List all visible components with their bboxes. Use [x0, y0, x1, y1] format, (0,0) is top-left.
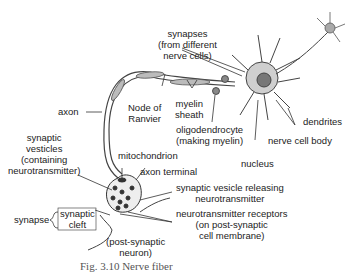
label-dendrites: dendrites [303, 116, 342, 127]
label-mitochondrion: mitochondrion [118, 150, 178, 161]
label-vesicles-line1: synaptic [8, 132, 80, 143]
label-node-line1: Node of [128, 102, 161, 113]
label-synapse: synapse [14, 214, 49, 225]
label-cleft-line2: cleft [60, 219, 95, 230]
label-synaptic-vesicles: synaptic vesticles (containing neurotran… [8, 132, 80, 176]
label-vesicles-line4: neurotransmitter) [8, 165, 80, 176]
label-synapses-line2: (from different [158, 39, 217, 50]
label-receptors-line3: cell membrane) [176, 230, 287, 241]
label-myelin-line1: myelin [175, 98, 204, 109]
label-oligo-line1: oligodendrocyte [176, 124, 243, 135]
label-oligodendrocyte: oligodendrocyte (making myelin) [176, 124, 243, 146]
label-axon: axon [58, 106, 79, 117]
label-nerve-cell-body: nerve cell body [268, 135, 332, 146]
label-oligo-line2: (making myelin) [176, 135, 243, 146]
label-axon-terminal: axon terminal [140, 166, 197, 177]
label-vesicles-line3: (containing [8, 154, 80, 165]
label-post-line1: (post-synaptic [106, 236, 165, 247]
label-releasing-line1: synaptic vesicle releasing [176, 182, 284, 193]
label-receptors-line1: neurotransmitter receptors [176, 208, 287, 219]
label-synapses-line1: synapses [158, 28, 217, 39]
distant-neuron-shape [317, 12, 345, 42]
label-synapses: synapses (from different nerve cells) [158, 28, 217, 61]
figure-caption: Fig. 3.10 Nerve fiber [80, 260, 173, 272]
label-cleft-line1: synaptic [60, 208, 95, 219]
label-node-of-ranvier: Node of Ranvier [128, 102, 161, 124]
label-synaptic-cleft: synaptic cleft [60, 208, 95, 230]
label-post-line2: neuron) [106, 247, 165, 258]
label-synaptic-vesicle-releasing: synaptic vesicle releasing neurotransmit… [176, 182, 284, 204]
label-nucleus: nucleus [241, 158, 274, 169]
label-receptors-line2: (on post-synaptic [176, 219, 287, 230]
label-releasing-line2: neurotransmitter [176, 193, 284, 204]
label-neurotransmitter-receptors: neurotransmitter receptors (on post-syna… [176, 208, 287, 241]
label-myelin-sheath: myelin sheath [175, 98, 204, 120]
synapse-brace [50, 212, 58, 228]
label-vesicles-line2: vesticles [8, 143, 80, 154]
label-myelin-line2: sheath [175, 109, 204, 120]
label-synapses-line3: nerve cells) [158, 50, 217, 61]
label-post-synaptic-neuron: (post-synaptic neuron) [106, 236, 165, 258]
label-node-line2: Ranvier [128, 113, 161, 124]
axon-terminal-shape [106, 175, 141, 212]
